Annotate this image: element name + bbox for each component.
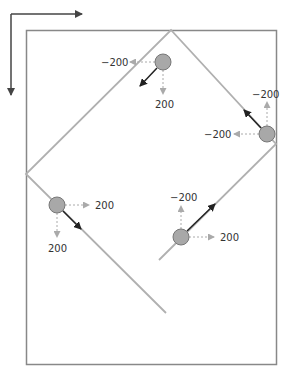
velocity-arrow [244, 110, 261, 128]
vx-label: −200 [204, 129, 231, 140]
velocity-arrow [63, 211, 81, 229]
vx-label: 200 [220, 232, 239, 243]
bouncing-ball-diagram: −200 200 −200 −200 200 200 200 −200 [0, 0, 287, 374]
ball-bottom: 200 −200 [170, 192, 239, 245]
ball-trajectory [26, 30, 276, 313]
boundary-box [27, 31, 277, 365]
velocity-arrow [187, 204, 215, 231]
coordinate-axes [11, 14, 82, 95]
ball [259, 126, 275, 142]
ball-right: −200 −200 [204, 89, 279, 142]
ball [155, 54, 171, 70]
vx-label: 200 [95, 200, 114, 211]
ball-top: −200 200 [101, 54, 174, 110]
velocity-arrow [140, 68, 157, 86]
ball-left: 200 200 [48, 197, 114, 254]
vy-label: −200 [252, 89, 279, 100]
ball [49, 197, 65, 213]
vy-label: 200 [48, 243, 67, 254]
ball [173, 229, 189, 245]
vx-label: −200 [101, 57, 128, 68]
vy-label: −200 [170, 192, 197, 203]
vy-label: 200 [155, 99, 174, 110]
